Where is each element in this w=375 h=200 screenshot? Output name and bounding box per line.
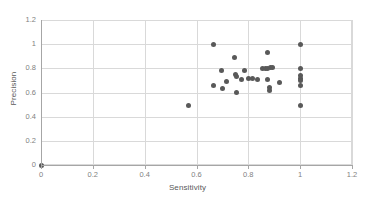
x-tick-mark [197,165,198,169]
data-point [234,90,239,95]
data-point [265,77,270,82]
data-point [298,103,303,108]
x-tick-label: 0.6 [182,170,212,179]
gridline-vertical [248,20,249,165]
data-point [220,86,225,91]
x-tick-label: 0.4 [130,170,160,179]
data-point [186,103,191,108]
x-tick-mark [300,165,301,169]
data-point [219,68,224,73]
x-tick-mark [145,165,146,169]
data-point [298,42,303,47]
data-point [224,79,229,84]
data-point [239,77,244,82]
data-point [211,42,216,47]
scatter-chart: 00.20.40.60.811.2 00.20.40.60.811.2 Sens… [0,0,375,200]
gridline-vertical [352,20,353,165]
y-axis-title: Precision [9,54,18,124]
plot-area [41,20,352,165]
data-point [277,80,282,85]
gridline-vertical [197,20,198,165]
y-axis-line [41,20,42,166]
data-point [265,50,270,55]
x-tick-mark [352,165,353,169]
x-tick-label: 0.2 [78,170,108,179]
data-point [211,83,216,88]
x-tick-mark [41,165,42,169]
x-tick-mark [248,165,249,169]
x-tick-label: 0.8 [233,170,263,179]
x-tick-label: 1.2 [337,170,367,179]
gridline-vertical [145,20,146,165]
gridline-vertical [93,20,94,165]
x-tick-label: 1 [285,170,315,179]
x-axis-title: Sensitivity [0,183,375,192]
data-point [242,68,247,73]
data-point [298,66,303,71]
x-tick-label: 0 [26,170,56,179]
x-tick-mark [93,165,94,169]
y-tick-label: 1 [10,39,36,48]
data-point [298,83,303,88]
data-point [250,76,255,81]
data-point [232,55,237,60]
y-tick-label: 0 [10,160,36,169]
data-point [255,77,260,82]
data-point [267,88,272,93]
y-tick-label: 1.2 [10,15,36,24]
y-tick-label: 0.2 [10,136,36,145]
